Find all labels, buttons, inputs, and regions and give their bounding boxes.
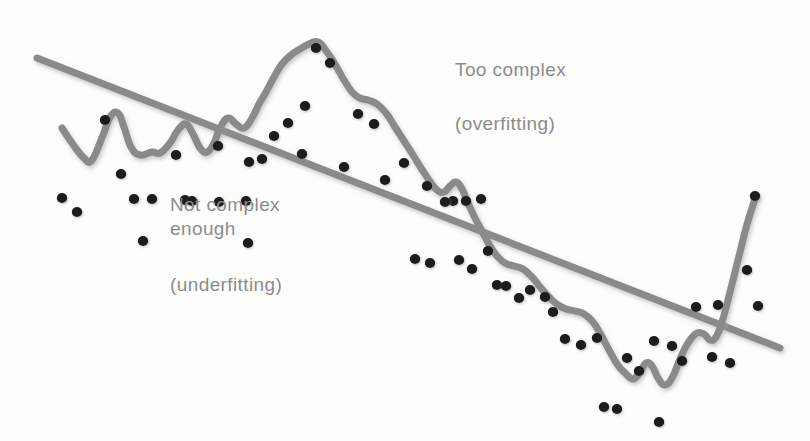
scatter-point (369, 119, 379, 129)
label-underfitting: (underfitting) (170, 273, 282, 297)
scatter-point (753, 301, 763, 311)
scatter-point (171, 150, 181, 160)
underfit-regression-line (37, 58, 780, 348)
label-too-complex: Too complex (455, 58, 566, 82)
scatter-point (742, 265, 752, 275)
scatter-point (548, 307, 558, 317)
label-not-complex-enough: Not complex enough (170, 193, 280, 242)
scatter-point (297, 149, 307, 159)
scatter-point (100, 115, 110, 125)
scatter-point (467, 264, 477, 274)
scatter-point (410, 254, 420, 264)
overfitting-underfitting-figure: Too complex (overfitting) Not complex en… (0, 0, 810, 441)
scatter-point (57, 193, 67, 203)
scatter-point (634, 366, 644, 376)
overfit-wiggly-curve (62, 41, 756, 385)
scatter-point (691, 302, 701, 312)
scatter-point (440, 197, 450, 207)
scatter-point (501, 281, 511, 291)
label-overfitting: (overfitting) (455, 112, 555, 136)
scatter-point (325, 58, 335, 68)
scatter-point (399, 158, 409, 168)
scatter-point (461, 196, 471, 206)
scatter-point (147, 194, 157, 204)
scatter-point (380, 175, 390, 185)
plot-canvas (0, 0, 810, 441)
scatter-point (599, 402, 609, 412)
scatter-point (713, 300, 723, 310)
scatter-point (667, 341, 677, 351)
scatter-point (576, 340, 586, 350)
label-not-complex-line1: Not complex (170, 194, 280, 215)
scatter-point (560, 334, 570, 344)
scatter-point (649, 336, 659, 346)
scatter-point (300, 101, 310, 111)
scatter-point (353, 109, 363, 119)
scatter-point (425, 258, 435, 268)
scatter-point (476, 194, 486, 204)
underfit-line-stroke (37, 58, 780, 348)
scatter-point (116, 169, 126, 179)
overfit-curve-stroke (62, 41, 756, 385)
scatter-point (592, 333, 602, 343)
scatter-point (269, 131, 279, 141)
scatter-point (707, 352, 717, 362)
scatter-point (612, 404, 622, 414)
scatter-point (654, 417, 664, 427)
scatter-point (422, 181, 432, 191)
scatter-point (677, 356, 687, 366)
scatter-point (514, 293, 524, 303)
scatter-point (283, 118, 293, 128)
scatter-point (311, 43, 321, 53)
scatter-point (129, 194, 139, 204)
scatter-point (622, 353, 632, 363)
scatter-point (454, 255, 464, 265)
scatter-point (244, 157, 254, 167)
scatter-point (750, 191, 760, 201)
scatter-point (339, 162, 349, 172)
scatter-point (213, 141, 223, 151)
scatter-point (257, 154, 267, 164)
scatter-point (483, 246, 493, 256)
scatter-point (72, 207, 82, 217)
scatter-point (540, 292, 550, 302)
scatter-point (725, 358, 735, 368)
scatter-point (492, 280, 502, 290)
scatter-point (525, 285, 535, 295)
scatter-point (138, 236, 148, 246)
label-not-complex-line2: enough (170, 218, 236, 239)
